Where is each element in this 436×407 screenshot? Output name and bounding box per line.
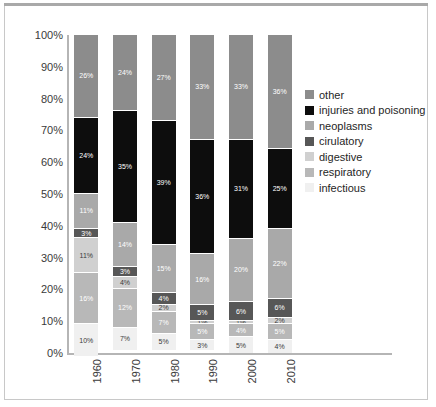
segment-infectious-2010[interactable]: 4% [268, 340, 292, 353]
legend-label: other [319, 89, 344, 101]
segment-injuries-and-poisoning-1970[interactable]: 35% [113, 111, 137, 222]
segment-value-label: 5% [197, 309, 207, 316]
segment-value-label: 4% [159, 295, 169, 302]
segment-value-label: 11% [80, 207, 94, 214]
segment-neoplasms-2010[interactable]: 22% [268, 229, 292, 299]
segment-value-label: 7% [120, 335, 130, 342]
segment-respiratory-2000[interactable]: 4% [229, 324, 253, 337]
y-axis-tick-80: 80% [11, 93, 63, 105]
segment-value-label: 39% [157, 179, 171, 186]
segment-respiratory-1990[interactable]: 5% [190, 324, 214, 340]
x-axis-tick-labels: 196019701980199020002010 [67, 357, 299, 407]
segment-infectious-1970[interactable]: 7% [113, 328, 137, 350]
segment-neoplasms-1960[interactable]: 11% [74, 194, 98, 229]
segment-value-label: 16% [79, 295, 93, 302]
legend-swatch-icon [305, 121, 314, 130]
segment-other-1980[interactable]: 27% [152, 35, 176, 121]
x-axis-tick-1990: 1990 [207, 359, 219, 383]
y-axis-tick-30: 30% [11, 252, 63, 264]
segment-respiratory-2010[interactable]: 5% [268, 324, 292, 340]
segment-value-label: 31% [234, 185, 248, 192]
segment-value-label: 12% [118, 304, 132, 311]
segment-value-label: 5% [275, 328, 285, 335]
bar-1960[interactable]: 26%24%11%3%11%16%10% [74, 35, 98, 353]
legend-label: infectious [319, 182, 365, 194]
bar-1980[interactable]: 27%39%15%4%2%7%5% [152, 35, 176, 353]
legend-item-cirulatory[interactable]: cirulatory [305, 134, 433, 150]
y-axis-tick-0: 0% [11, 347, 63, 359]
legend-swatch-icon [305, 90, 314, 99]
segment-value-label: 14% [118, 241, 132, 248]
segment-injuries-and-poisoning-1980[interactable]: 39% [152, 121, 176, 245]
segment-cirulatory-2010[interactable]: 6% [268, 299, 292, 318]
segment-value-label: 36% [195, 193, 209, 200]
legend-label: digestive [319, 151, 362, 163]
segment-cirulatory-1990[interactable]: 5% [190, 305, 214, 321]
segment-neoplasms-2000[interactable]: 20% [229, 239, 253, 303]
legend-item-injuries-and-poisoning[interactable]: injuries and poisoning [305, 103, 433, 119]
y-axis-tick-20: 20% [11, 283, 63, 295]
segment-value-label: 15% [157, 265, 171, 272]
segment-cirulatory-1970[interactable]: 3% [113, 267, 137, 277]
legend-swatch-icon [305, 152, 314, 161]
y-axis-tick-60: 60% [11, 156, 63, 168]
x-axis-tick-1970: 1970 [130, 359, 142, 383]
segment-cirulatory-1980[interactable]: 4% [152, 293, 176, 306]
segment-neoplasms-1980[interactable]: 15% [152, 245, 176, 293]
segment-value-label: 10% [79, 337, 93, 344]
bar-2010[interactable]: 36%25%22%6%2%5%4% [268, 35, 292, 353]
stacked-bars: 26%24%11%3%11%16%10%24%35%14%3%4%12%7%27… [67, 35, 299, 353]
segment-value-label: 3% [81, 230, 91, 237]
segment-value-label: 5% [197, 328, 207, 335]
segment-value-label: 2% [275, 318, 285, 324]
bar-1990[interactable]: 33%36%16%5%1%5%3% [190, 35, 214, 353]
y-axis-tick-100: 100% [11, 29, 63, 41]
x-axis-tick-2000: 2000 [246, 359, 258, 383]
segment-value-label: 3% [197, 342, 207, 349]
segment-value-label: 33% [234, 83, 248, 90]
segment-injuries-and-poisoning-1990[interactable]: 36% [190, 140, 214, 254]
segment-value-label: 20% [234, 266, 248, 273]
segment-other-2000[interactable]: 33% [229, 35, 253, 140]
segment-other-1960[interactable]: 26% [74, 35, 98, 118]
legend-item-digestive[interactable]: digestive [305, 149, 433, 165]
segment-neoplasms-1970[interactable]: 14% [113, 223, 137, 268]
segment-digestive-1970[interactable]: 4% [113, 277, 137, 290]
segment-injuries-and-poisoning-2010[interactable]: 25% [268, 149, 292, 229]
legend-swatch-icon [305, 137, 314, 146]
legend-label: neoplasms [319, 120, 372, 132]
legend-item-neoplasms[interactable]: neoplasms [305, 118, 433, 134]
segment-value-label: 22% [273, 260, 287, 267]
segment-digestive-1960[interactable]: 11% [74, 238, 98, 273]
legend-item-infectious[interactable]: infectious [305, 180, 433, 196]
bar-2000[interactable]: 33%31%20%6%1%4%5% [229, 35, 253, 353]
segment-respiratory-1980[interactable]: 7% [152, 312, 176, 334]
segment-other-2010[interactable]: 36% [268, 35, 292, 149]
segment-value-label: 3% [120, 268, 130, 275]
segment-value-label: 2% [159, 305, 169, 311]
segment-infectious-1990[interactable]: 3% [190, 340, 214, 350]
y-axis-tick-40: 40% [11, 220, 63, 232]
x-axis-tick-1980: 1980 [169, 359, 181, 383]
segment-value-label: 27% [157, 74, 171, 81]
segment-cirulatory-1960[interactable]: 3% [74, 229, 98, 239]
segment-injuries-and-poisoning-1960[interactable]: 24% [74, 118, 98, 194]
chart-frame: 100%90%80%70%60%50%40%30%20%10%0% 26%24%… [4, 4, 428, 400]
segment-value-label: 35% [118, 163, 132, 170]
segment-respiratory-1970[interactable]: 12% [113, 289, 137, 327]
segment-respiratory-1960[interactable]: 16% [74, 273, 98, 324]
segment-neoplasms-1990[interactable]: 16% [190, 254, 214, 305]
legend-swatch-icon [305, 183, 314, 192]
segment-value-label: 24% [79, 152, 93, 159]
segment-infectious-2000[interactable]: 5% [229, 337, 253, 353]
legend-item-respiratory[interactable]: respiratory [305, 165, 433, 181]
segment-infectious-1960[interactable]: 10% [74, 324, 98, 356]
segment-infectious-1980[interactable]: 5% [152, 334, 176, 350]
segment-other-1970[interactable]: 24% [113, 35, 137, 111]
segment-other-1990[interactable]: 33% [190, 35, 214, 140]
segment-value-label: 5% [236, 342, 246, 349]
legend-item-other[interactable]: other [305, 87, 433, 103]
bar-1970[interactable]: 24%35%14%3%4%12%7% [113, 35, 137, 353]
segment-cirulatory-2000[interactable]: 6% [229, 302, 253, 321]
segment-injuries-and-poisoning-2000[interactable]: 31% [229, 140, 253, 239]
